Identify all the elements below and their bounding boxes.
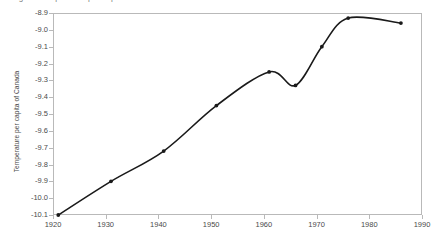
data-point-marker <box>267 70 271 74</box>
data-point-marker <box>346 16 350 20</box>
data-point-marker <box>215 104 219 108</box>
data-point-marker <box>56 213 60 217</box>
series-markers <box>56 16 402 217</box>
data-point-marker <box>294 83 298 87</box>
data-series-layer <box>0 0 431 246</box>
series-line <box>58 17 401 215</box>
data-point-marker <box>162 149 166 153</box>
data-point-marker <box>320 45 324 49</box>
chart-container: Figure: Temperature per capita of Canada… <box>0 0 431 246</box>
data-point-marker <box>399 21 403 25</box>
data-point-marker <box>109 179 113 183</box>
